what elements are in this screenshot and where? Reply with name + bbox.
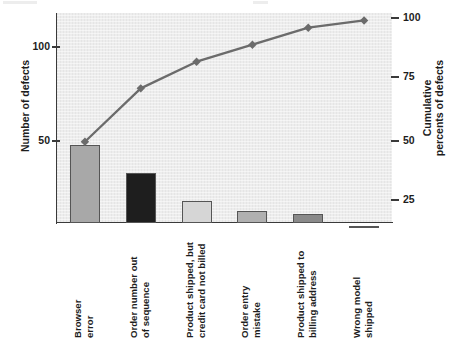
y-axis-right-title: Cumulative percents of defects (421, 43, 445, 173)
tick-label-right-75: 75 (403, 71, 415, 82)
category-label-3-line-1: Product shipped, but (184, 242, 196, 338)
category-label-4-line-1: Order entry (239, 286, 251, 338)
tick-label-right-25: 25 (403, 194, 415, 205)
category-label-2: Order number outof sequence (128, 256, 151, 338)
category-label-1: Browsererror (72, 300, 95, 338)
category-label-6: Wrong modelshipped (351, 277, 374, 338)
category-label-6-line-2: shipped (363, 277, 375, 338)
tick-label-right-50: 50 (403, 135, 415, 146)
category-label-2-line-2: of sequence (139, 256, 151, 338)
category-label-1-line-2: error (83, 300, 95, 338)
tick-mark-left-0 (52, 46, 60, 47)
plot-panel (57, 13, 392, 223)
category-label-4: Order entrymistake (239, 286, 262, 338)
category-label-5-line-2: billing address (307, 251, 319, 338)
panel-texture (57, 13, 392, 223)
y-axis-left-title: Number of defects (19, 46, 31, 166)
tick-mark-right-3 (391, 199, 399, 200)
category-label-1-line-1: Browser (72, 300, 84, 338)
bar-2 (126, 173, 156, 223)
tick-mark-left-1 (52, 140, 60, 141)
category-label-3: Product shipped, butcredit card not bill… (184, 242, 207, 338)
category-label-5-line-1: Product shipped to (295, 251, 307, 338)
scan-artifact (3, 1, 37, 4)
category-label-4-line-2: mistake (251, 286, 263, 338)
y-axis-right-title-line2: percents of defects (433, 43, 445, 173)
tick-mark-right-2 (391, 140, 399, 141)
bar-3 (182, 201, 212, 223)
category-label-5: Product shipped tobilling address (295, 251, 318, 338)
scan-artifact (253, 1, 268, 4)
category-label-6-line-1: Wrong model (351, 277, 363, 338)
x-axis-baseline (56, 222, 393, 223)
tick-mark-right-1 (391, 76, 399, 77)
bar-4 (237, 211, 267, 223)
bar-5 (293, 214, 323, 223)
tick-mark-right-0 (391, 17, 399, 18)
y-axis-right-title-line1: Cumulative (421, 43, 433, 173)
category-label-3-line-2: credit card not billed (195, 242, 207, 338)
pareto-chart: 10050100755025 Number of defects Cumulat… (0, 0, 458, 345)
tick-label-right-100: 100 (403, 12, 421, 23)
y-axis-left-line (56, 13, 57, 224)
bar-1 (70, 145, 100, 223)
category-label-2-line-1: Order number out (128, 256, 140, 338)
bar-6 (349, 226, 379, 228)
